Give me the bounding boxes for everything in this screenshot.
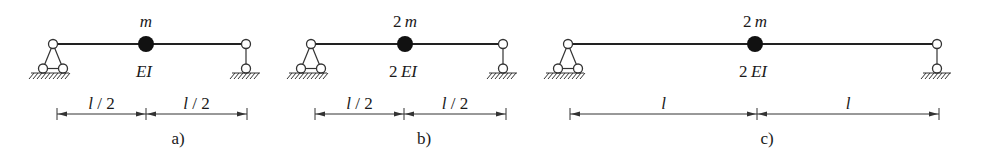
- hinge-icon: [242, 40, 251, 49]
- span-length-label: l / 2: [442, 94, 468, 113]
- panel-b: 2 m2 EIl / 2l / 2b): [287, 12, 517, 148]
- link-support-icon: [921, 40, 951, 80]
- mass-label: m: [140, 12, 152, 31]
- span-length-label: l / 2: [346, 94, 372, 113]
- panel-caption: a): [171, 129, 184, 148]
- dimension-arrowhead-icon: [405, 112, 414, 117]
- panel-c: 2 m2 EIllc): [544, 12, 951, 148]
- mass-label: 2 m: [743, 12, 767, 31]
- hinge-icon: [933, 40, 942, 49]
- span-length-label: l / 2: [88, 94, 114, 113]
- dimension-arrowhead-icon: [316, 112, 325, 117]
- dimension-arrowhead-icon: [58, 112, 67, 117]
- pinned-support-icon: [287, 40, 328, 80]
- point-mass-icon: [397, 36, 413, 52]
- span-length-label: l / 2: [183, 94, 209, 113]
- dimension-arrowhead-icon: [136, 112, 145, 117]
- panel-caption: b): [417, 129, 431, 148]
- stiffness-label: 2 EI: [389, 62, 418, 81]
- dimension-line: l / 2l / 2: [315, 94, 506, 120]
- hinge-icon: [499, 40, 508, 49]
- dimension-line: ll: [570, 94, 939, 120]
- panel-caption: c): [760, 129, 773, 148]
- link-support-icon: [487, 40, 517, 80]
- point-mass-icon: [747, 36, 763, 52]
- hinge-icon: [49, 40, 58, 49]
- dimension-arrowhead-icon: [394, 112, 403, 117]
- panel-a: mEIl / 2l / 2a): [29, 12, 260, 148]
- dimension-arrowhead-icon: [758, 112, 767, 117]
- stiffness-label: EI: [135, 62, 153, 81]
- hinge-icon: [307, 40, 316, 49]
- dimension-arrowhead-icon: [747, 112, 756, 117]
- dimension-arrowhead-icon: [147, 112, 156, 117]
- dimension-arrowhead-icon: [237, 112, 246, 117]
- point-mass-icon: [138, 36, 154, 52]
- link-support-icon: [230, 40, 260, 80]
- mass-label: 2 m: [393, 12, 417, 31]
- stiffness-label: 2 EI: [739, 62, 768, 81]
- pinned-support-icon: [29, 40, 70, 80]
- hinge-icon: [564, 40, 573, 49]
- dimension-arrowhead-icon: [929, 112, 938, 117]
- span-length-label: l: [846, 94, 851, 113]
- dimension-arrowhead-icon: [496, 112, 505, 117]
- dimension-line: l / 2l / 2: [57, 94, 247, 120]
- span-length-label: l: [661, 94, 666, 113]
- dimension-arrowhead-icon: [571, 112, 580, 117]
- beam-diagrams: mEIl / 2l / 2a)2 m2 EIl / 2l / 2b)2 m2 E…: [0, 0, 986, 159]
- pinned-support-icon: [544, 40, 585, 80]
